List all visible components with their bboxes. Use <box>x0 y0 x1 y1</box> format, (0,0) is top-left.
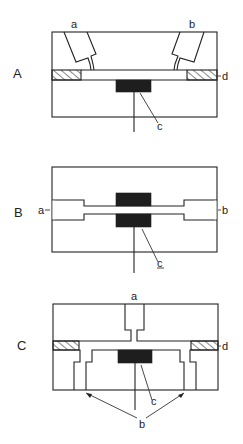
panel-a-label-a: a <box>71 18 78 30</box>
panel-b-sensor-block-bottom <box>116 214 151 227</box>
panel-c-gasket-left <box>53 341 79 350</box>
panel-b: B c a b <box>14 167 228 273</box>
panel-a-leader-c <box>140 93 158 123</box>
figure-caption <box>10 434 235 444</box>
panel-c-port-a <box>53 304 218 341</box>
panel-b-label-c: c <box>157 257 163 269</box>
panel-label-b: B <box>14 205 23 220</box>
panel-b-label-b: b <box>222 204 228 216</box>
panel-a-label-c: c <box>157 120 163 132</box>
panel-c-gasket-right <box>191 341 218 350</box>
panel-b-sensor-block-top <box>116 193 151 206</box>
panel-c-arrowhead-left <box>86 393 92 398</box>
panel-b-label-a: a <box>38 204 45 216</box>
panel-b-inlet-opening <box>53 201 55 220</box>
panel-a-label-d: d <box>222 70 228 82</box>
panel-a-gasket-right <box>187 70 217 80</box>
panel-a-port-b <box>172 32 204 70</box>
panel-a-label-b: b <box>189 18 195 30</box>
panel-c-sensor-block <box>118 350 152 363</box>
panel-c-label-b: b <box>139 418 145 430</box>
panel-c-arrow-b-left <box>86 393 137 418</box>
panel-c: C c a b d <box>17 290 228 430</box>
panel-c-label-a: a <box>131 290 138 302</box>
panel-b-leader-c <box>142 229 158 262</box>
panel-a-port-a <box>64 32 96 70</box>
panel-b-outlet-opening <box>214 201 216 220</box>
panel-a-sensor-block <box>116 80 151 92</box>
panel-label-c: C <box>17 338 26 353</box>
diagram-canvas: A a b c d B <box>0 0 243 444</box>
panel-c-arrowhead-right <box>178 393 184 398</box>
panel-a: A a b c d <box>13 18 228 132</box>
panel-label-a: A <box>13 66 22 81</box>
panel-c-label-d: d <box>222 340 228 352</box>
panel-a-gasket-left <box>52 70 81 80</box>
panel-c-label-c: c <box>151 395 157 407</box>
